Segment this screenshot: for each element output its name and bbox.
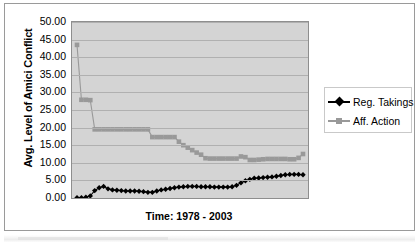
data-point-marker xyxy=(274,157,279,162)
data-point-marker xyxy=(203,156,208,161)
data-point-marker xyxy=(79,97,84,102)
data-point-marker xyxy=(181,184,186,189)
data-point-marker xyxy=(84,97,89,102)
data-point-marker xyxy=(296,172,301,177)
data-point-marker xyxy=(154,188,159,193)
data-point-marker xyxy=(300,172,305,177)
data-point-marker xyxy=(194,150,199,155)
data-point-marker xyxy=(243,155,248,160)
chart-legend: Reg. TakingsAff. Action xyxy=(324,87,412,133)
gridline xyxy=(72,75,308,76)
data-point-marker xyxy=(96,185,101,190)
legend-square-marker-icon xyxy=(336,118,342,124)
data-point-marker xyxy=(105,186,110,191)
data-point-marker xyxy=(265,157,270,162)
gridline xyxy=(72,110,308,111)
data-point-marker xyxy=(119,188,124,193)
x-axis-title: Time: 1978 - 2003 xyxy=(71,210,307,222)
data-point-marker xyxy=(261,157,266,162)
data-point-marker xyxy=(279,157,284,162)
legend-label: Aff. Action xyxy=(353,115,400,127)
bottom-edge-artifact xyxy=(4,235,415,242)
y-axis-tick-label: 10.00 xyxy=(22,157,66,167)
gridline xyxy=(72,145,308,146)
series-reg-takings xyxy=(74,172,305,198)
data-point-marker xyxy=(199,152,204,157)
legend-swatch-icon xyxy=(328,115,350,127)
y-axis-tick-label: 35.00 xyxy=(22,69,66,79)
data-point-marker xyxy=(221,156,226,161)
gridline xyxy=(72,163,308,164)
data-point-marker xyxy=(159,135,164,140)
data-point-marker xyxy=(110,187,115,192)
gridline xyxy=(72,57,308,58)
data-point-marker xyxy=(176,184,181,189)
legend-item[interactable]: Reg. Takings xyxy=(328,92,408,111)
data-point-marker xyxy=(158,187,163,192)
data-point-marker xyxy=(177,139,182,144)
data-point-marker xyxy=(167,186,172,191)
data-point-marker xyxy=(270,157,275,162)
data-point-marker xyxy=(141,189,146,194)
data-point-marker xyxy=(301,152,306,157)
artifact-smudge xyxy=(18,237,168,240)
data-point-marker xyxy=(163,135,168,140)
data-point-marker xyxy=(172,135,177,140)
data-point-marker xyxy=(212,156,217,161)
y-axis-tick-label: 40.00 xyxy=(22,51,66,61)
data-point-marker xyxy=(296,156,301,161)
data-point-marker xyxy=(168,135,173,140)
data-point-marker xyxy=(150,135,155,140)
data-point-marker xyxy=(185,145,190,150)
data-point-marker xyxy=(292,157,297,162)
data-point-marker xyxy=(239,154,244,159)
legend-swatch-icon xyxy=(328,96,350,108)
data-point-marker xyxy=(101,184,106,189)
gridline xyxy=(72,92,308,93)
data-point-marker xyxy=(136,189,141,194)
y-axis-tick-label: 30.00 xyxy=(22,86,66,96)
gridline xyxy=(72,128,308,129)
data-point-marker xyxy=(256,157,261,162)
data-point-marker xyxy=(234,156,239,161)
data-point-marker xyxy=(207,184,212,189)
legend-item[interactable]: Aff. Action xyxy=(328,111,408,130)
data-point-marker xyxy=(287,157,292,162)
y-axis-tick-label: 5.00 xyxy=(22,174,66,184)
data-point-marker xyxy=(172,185,177,190)
y-axis-tick-label: 45.00 xyxy=(22,34,66,44)
gridline xyxy=(72,40,308,41)
y-axis-tick-label: 0.00 xyxy=(22,192,66,202)
y-axis-tick-label: 50.00 xyxy=(22,16,66,26)
data-point-marker xyxy=(278,173,283,178)
gridline xyxy=(72,22,308,23)
data-point-marker xyxy=(114,188,119,193)
data-point-marker xyxy=(274,173,279,178)
y-axis-tick-labels: 50.0045.0040.0035.0030.0025.0020.0015.00… xyxy=(22,14,66,204)
data-point-marker xyxy=(132,188,137,193)
data-point-marker xyxy=(75,43,80,48)
data-point-marker xyxy=(88,98,93,103)
data-point-marker xyxy=(283,172,288,177)
series-line xyxy=(77,45,303,160)
y-axis-tick-label: 20.00 xyxy=(22,122,66,132)
plot-area xyxy=(71,21,309,199)
data-point-marker xyxy=(225,156,230,161)
legend-label: Reg. Takings xyxy=(353,96,414,108)
data-point-marker xyxy=(163,187,168,192)
data-point-marker xyxy=(217,156,222,161)
data-point-marker xyxy=(234,183,239,188)
y-axis-tick-label: 25.00 xyxy=(22,104,66,114)
data-point-marker xyxy=(208,156,213,161)
data-point-marker xyxy=(190,148,195,153)
data-point-marker xyxy=(269,174,274,179)
data-point-marker xyxy=(248,158,253,163)
gridline xyxy=(72,180,308,181)
data-point-marker xyxy=(79,195,84,198)
data-point-marker xyxy=(283,157,288,162)
legend-diamond-marker-icon xyxy=(335,96,345,106)
y-axis-tick-label: 15.00 xyxy=(22,139,66,149)
data-point-marker xyxy=(229,184,234,189)
data-point-marker xyxy=(150,190,155,195)
data-point-marker xyxy=(154,135,159,140)
